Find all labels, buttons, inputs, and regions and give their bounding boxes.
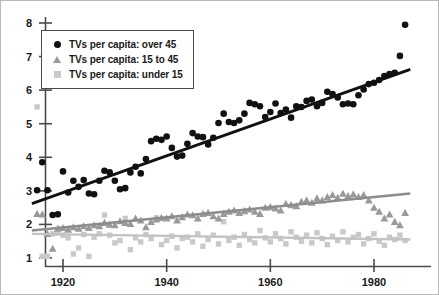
data-point [288,229,293,234]
x-axis-tick-labels: 1920194019601980 [51,276,386,288]
data-point [313,194,321,201]
trendline-over-45 [32,69,410,203]
x-tick-label: 1980 [362,276,386,288]
data-point [237,243,242,248]
data-point [164,238,169,243]
data-point [91,191,98,198]
data-point [272,100,279,107]
data-point [386,210,394,217]
data-point [220,110,227,117]
data-point [349,190,357,197]
data-point [200,134,207,141]
data-point [44,187,51,194]
data-point [216,241,221,246]
scatter-chart: 12345678 1920194019601980 TVs per capita… [0,0,439,295]
data-point [309,240,314,245]
data-point [45,254,50,259]
y-tick-label: 4 [26,151,33,163]
square-marker-icon [50,71,64,78]
data-point [382,243,387,248]
data-point [299,239,304,244]
legend-label-15-to-45: TVs per capita: 15 to 45 [69,54,178,65]
data-point [200,244,205,249]
data-point [226,238,231,243]
data-point [40,254,45,259]
data-point [288,114,295,121]
data-point [55,211,62,218]
data-point [402,21,409,28]
data-point [241,110,248,117]
data-point [361,241,366,246]
data-point [257,228,262,233]
data-point [137,170,144,177]
x-axis-ticks [63,259,374,272]
data-point [80,177,87,184]
y-tick-label: 3 [26,185,32,197]
data-point [39,159,46,166]
chart-legend: TVs per capita: over 45 TVs per capita: … [41,30,194,89]
data-point [112,177,119,184]
data-point [273,231,278,236]
data-point [356,232,361,237]
y-tick-label: 1 [26,252,32,264]
data-point [174,245,179,250]
data-point [339,190,347,197]
data-point [221,219,226,224]
data-point [329,191,337,198]
data-point [102,212,107,217]
data-point [309,96,316,103]
data-point [215,120,222,127]
data-point [60,168,67,175]
data-point [169,145,176,152]
trendline-15-to-45 [32,194,410,231]
data-point [401,209,409,216]
data-point [397,232,402,237]
legend-item-over-45: TVs per capita: over 45 [50,37,183,52]
y-axis-tick-labels: 12345678 [26,17,33,264]
triangle-marker-icon [50,56,64,63]
data-point [350,101,357,108]
data-point [345,239,350,244]
data-point [65,235,70,240]
data-point [71,251,76,256]
data-point [268,239,273,244]
y-tick-label: 6 [26,84,32,96]
legend-label-under-15: TVs per capita: under 15 [69,69,183,80]
x-tick-label: 1960 [258,276,282,288]
legend-item-under-15: TVs per capita: under 15 [50,67,183,82]
y-tick-label: 5 [26,118,32,130]
legend-label-over-45: TVs per capita: over 45 [69,39,176,50]
data-point [370,204,378,211]
data-point [391,218,399,225]
x-tick-label: 1920 [51,276,75,288]
data-point [138,239,143,244]
data-point [325,242,330,247]
trend-line [32,69,410,203]
data-point [128,247,133,252]
data-point [70,177,77,184]
data-point [397,53,404,60]
data-point [190,239,195,244]
x-tick-label: 1940 [154,276,178,288]
trend-line [32,194,410,231]
data-point [340,229,345,234]
data-point [236,117,243,124]
data-point [283,241,288,246]
circle-marker-icon [50,41,64,48]
data-point [252,240,257,245]
data-point [163,133,170,140]
data-point [355,92,362,99]
legend-item-15-to-45: TVs per capita: 15 to 45 [50,52,183,67]
data-point [76,245,81,250]
data-point [267,109,274,116]
data-point [117,238,122,243]
y-tick-label: 2 [26,218,32,230]
data-point [122,185,129,192]
data-point [371,231,376,236]
y-tick-label: 7 [26,51,32,63]
y-tick-label: 8 [26,17,32,29]
data-point [159,242,164,247]
data-point [179,152,186,159]
data-point [34,187,41,194]
data-point [34,104,39,109]
